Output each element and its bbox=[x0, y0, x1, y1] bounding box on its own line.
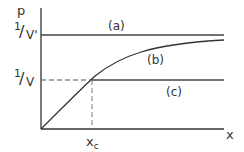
x-tick-sub: c bbox=[94, 141, 99, 151]
fraction-slash: / bbox=[19, 22, 24, 41]
y-axis-label: p bbox=[17, 4, 25, 17]
curve-b bbox=[41, 40, 224, 129]
y-tick-denominator: V bbox=[26, 75, 34, 89]
y-tick-denominator: V' bbox=[26, 28, 38, 42]
x-tick-main: x bbox=[86, 134, 94, 149]
fraction-slash: / bbox=[19, 69, 24, 88]
x-tick-xc: xc bbox=[86, 135, 99, 148]
x-axis-label: x bbox=[226, 128, 234, 141]
curve-b-label: (b) bbox=[147, 54, 164, 66]
curve-a-label: (a) bbox=[108, 20, 125, 32]
curve-c-label: (c) bbox=[166, 86, 182, 98]
